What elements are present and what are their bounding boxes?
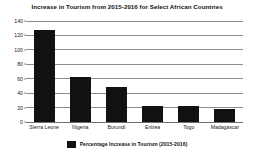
chart-legend: Percentage Increase in Tourism (2015-201… [0, 141, 254, 148]
bar [106, 87, 127, 122]
x-axis-labels: Sierra LeoneNigeriaBurundiEritreaTogoMad… [26, 123, 243, 133]
x-tick-label: Madagascar [211, 124, 240, 130]
bar [70, 77, 91, 122]
x-tick-label: Sierra Leone [29, 124, 59, 130]
chart-title: Increase in Tourism from 2015-2016 for S… [0, 3, 254, 11]
y-tick-label: 40 [17, 91, 23, 96]
bar [214, 109, 235, 122]
x-tick-label: Eritrea [145, 124, 160, 130]
y-tick-label: 60 [17, 76, 23, 81]
y-tick-label: 0 [20, 120, 23, 125]
y-tick-label: 100 [14, 47, 23, 52]
y-tick-label: 80 [17, 62, 23, 67]
bars-group [26, 21, 243, 122]
x-tick-label: Nigeria [72, 124, 88, 130]
y-tick-label: 20 [17, 105, 23, 110]
x-tick-label: Togo [183, 124, 194, 130]
bar [34, 30, 55, 122]
y-tick-label: 120 [14, 33, 23, 38]
bar [178, 106, 199, 122]
bar-chart: Increase in Tourism from 2015-2016 for S… [0, 0, 254, 159]
x-tick-label: Burundi [107, 124, 125, 130]
bar [142, 106, 163, 122]
legend-swatch-icon [67, 141, 76, 148]
y-tick-label: 140 [14, 19, 23, 24]
legend-label: Percentage Increase in Tourism (2015-201… [80, 141, 188, 148]
plot-area: 020406080100120140 [26, 21, 243, 122]
